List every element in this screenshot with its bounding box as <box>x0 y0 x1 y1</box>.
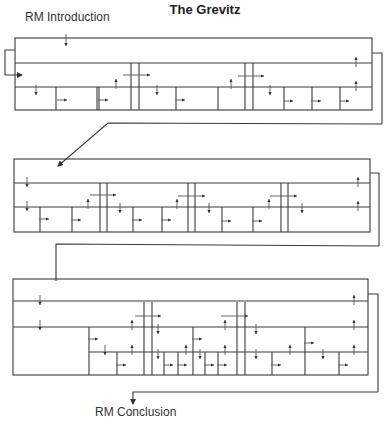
arrow-up-icon <box>352 295 355 298</box>
arrow-right-icon <box>259 219 262 222</box>
arrow-right-icon <box>64 98 67 101</box>
arrow-down-icon <box>38 302 41 305</box>
arrow-right-icon <box>245 314 248 317</box>
arrow-right-icon <box>147 73 150 76</box>
arrow-down-icon <box>207 210 210 213</box>
arrow-right-icon <box>170 363 173 366</box>
arrow-right-icon <box>168 218 171 221</box>
arrow-right-icon <box>211 363 214 366</box>
arrow-up-icon <box>114 79 117 82</box>
arrow-up-icon <box>175 199 178 202</box>
connector-p3-to-conclusion <box>133 392 378 404</box>
arrow-down-icon <box>25 208 28 211</box>
arrow-up-icon <box>86 199 89 202</box>
arrow-down-icon <box>198 356 201 359</box>
panel-box <box>14 159 370 232</box>
arrow-down-icon <box>321 356 324 359</box>
arrow-down-icon <box>268 92 271 95</box>
arrow-down-icon <box>118 210 121 213</box>
arrow-right-icon <box>182 98 185 101</box>
arrow-right-icon <box>46 217 49 220</box>
arrow-up-icon <box>229 79 232 82</box>
arrow-down-icon <box>254 331 257 334</box>
arrow-up-icon <box>352 345 355 348</box>
connector-p2-to-p3 <box>56 244 379 281</box>
arrow-up-icon <box>130 345 133 348</box>
right-bracket <box>368 294 378 392</box>
arrow-up-icon <box>354 57 357 60</box>
arrow-right-icon <box>202 194 205 197</box>
arrow-right-icon <box>139 218 142 221</box>
connector-p1-to-p2 <box>58 123 382 166</box>
arrow-up-icon <box>354 81 357 84</box>
arrow-right-icon <box>311 341 314 344</box>
arrow-up-icon <box>288 345 291 348</box>
arrow-right-icon <box>113 193 116 196</box>
arrow-right-icon <box>278 363 281 366</box>
arrow-right-icon <box>95 337 98 340</box>
arrow-right-icon <box>228 219 231 222</box>
arrow-down-icon <box>155 92 158 95</box>
arrow-up-icon <box>223 320 226 323</box>
arrow-down-icon <box>156 331 159 334</box>
arrow-up-icon <box>223 345 226 348</box>
panel-3 <box>13 279 378 392</box>
arrow-up-icon <box>356 201 359 204</box>
arrow-down-icon <box>300 210 303 213</box>
panel-1 <box>15 34 382 124</box>
arrow-right-icon <box>224 363 227 366</box>
arrow-down-icon <box>34 92 37 95</box>
arrow-right-icon <box>294 194 297 197</box>
arrow-right-icon <box>261 74 264 77</box>
right-bracket <box>370 173 379 246</box>
arrow-right-icon <box>199 337 202 340</box>
arrow-right-icon <box>345 363 348 366</box>
arrow-up-icon <box>352 320 355 323</box>
arrow-right-icon <box>184 363 187 366</box>
arrow-down-icon <box>156 356 159 359</box>
arrow-up-icon <box>356 177 359 180</box>
arrow-right-icon <box>158 314 161 317</box>
grevitz-diagram <box>0 0 385 431</box>
arrow-down-icon <box>25 184 28 187</box>
panel-box <box>15 38 372 110</box>
arrow-right-icon <box>105 98 108 101</box>
arrow-right-icon <box>346 99 349 102</box>
arrow-down-icon <box>103 352 106 355</box>
right-bracket <box>372 53 382 124</box>
arrow-right-icon <box>318 99 321 102</box>
arrow-down-icon <box>64 43 67 46</box>
arrow-down-icon <box>38 327 41 330</box>
arrow-down-icon <box>254 356 257 359</box>
panel-2 <box>14 159 379 246</box>
arrow-up-icon <box>184 345 187 348</box>
arrow-right-icon <box>78 218 81 221</box>
arrow-up-icon <box>267 199 270 202</box>
arrow-right-icon <box>123 363 126 366</box>
arrow-up-icon <box>130 320 133 323</box>
arrow-right-icon <box>290 99 293 102</box>
